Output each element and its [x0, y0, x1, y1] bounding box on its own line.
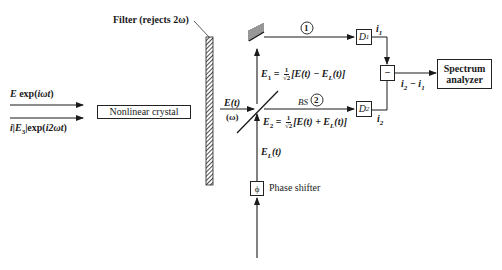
label-part: iωt: [38, 88, 51, 99]
i1-wire: [372, 37, 387, 64]
phase-symbol-icon: ϕ: [255, 184, 260, 194]
i2-wire: [372, 81, 387, 110]
denominator: √2: [285, 123, 292, 130]
spectrum-analyzer-label-line1: Spectrum: [444, 63, 486, 74]
denominator: √2: [283, 75, 290, 82]
spectrum-analyzer: Spectrum analyzer: [437, 59, 492, 89]
beam-splitter-label: BS: [298, 97, 308, 107]
formula-part: =: [271, 68, 282, 79]
formula-part: =: [273, 116, 284, 127]
detector-label: D: [359, 104, 366, 114]
formula-part: 2: [380, 119, 384, 127]
formula-part: [E(t) − E: [291, 68, 328, 79]
signal-field-label: E(t): [224, 98, 240, 108]
path-2-label: 2: [314, 95, 319, 105]
diagram-lines: [0, 0, 502, 270]
local-oscillator-label: EL(t): [261, 147, 281, 161]
formula-part: E: [261, 68, 268, 79]
detector-sub: 1: [366, 32, 370, 42]
formula-part: (t): [272, 146, 281, 157]
e2-formula: E2 = 1√2[E(t) + EL(t)]: [263, 115, 347, 131]
label-part: E: [10, 88, 17, 99]
formula-part: 1: [421, 84, 425, 92]
fraction: 1√2: [283, 67, 290, 82]
label-part: i|E: [10, 122, 22, 133]
label-part: i2ωt: [46, 122, 64, 133]
pump-input-label: i|E3|exp(i2ωt): [10, 123, 67, 137]
subtractor: −: [380, 65, 395, 81]
formula-part: [E(t) + E: [293, 116, 330, 127]
formula-part: −: [407, 78, 418, 89]
formula-part: E: [261, 146, 268, 157]
fundamental-input-label: E exp(iωt): [10, 89, 54, 99]
fraction: 1√2: [285, 115, 292, 130]
phase-shifter-label: Phase shifter: [269, 183, 320, 193]
minus-icon: −: [385, 68, 391, 78]
filter-plate: [206, 37, 213, 185]
phase-shifter: ϕ: [250, 181, 264, 196]
crystal-label: Nonlinear crystal: [109, 107, 178, 117]
formula-part: E: [263, 116, 270, 127]
label-part: |exp(: [25, 122, 46, 133]
detector-2: D2: [356, 101, 372, 117]
i2-label: i2: [377, 114, 383, 128]
label-part: exp(: [17, 88, 38, 99]
path-1-label: 1: [304, 23, 309, 33]
difference-label: i2 − i1: [401, 79, 425, 93]
signal-frequency-label: (ω): [226, 112, 239, 122]
detector-1: D1: [356, 29, 372, 45]
formula-part: (t)]: [333, 68, 346, 79]
nonlinear-crystal: Nonlinear crystal: [97, 105, 191, 119]
formula-part: 1: [379, 29, 383, 37]
label-part: ): [50, 88, 53, 99]
filter-leader-line: [194, 21, 209, 37]
e1-formula: E1 = 1√2[E(t) − EL(t)]: [261, 67, 345, 83]
detector-sub: 2: [366, 104, 370, 114]
detector-label: D: [359, 32, 366, 42]
mirror-hatching: [249, 23, 263, 41]
filter-label: Filter (rejects 2ω): [113, 15, 189, 25]
i1-label: i1: [376, 24, 382, 38]
spectrum-analyzer-label-line2: analyzer: [446, 74, 483, 85]
formula-part: (t)]: [334, 116, 347, 127]
label-part: ): [64, 122, 67, 133]
